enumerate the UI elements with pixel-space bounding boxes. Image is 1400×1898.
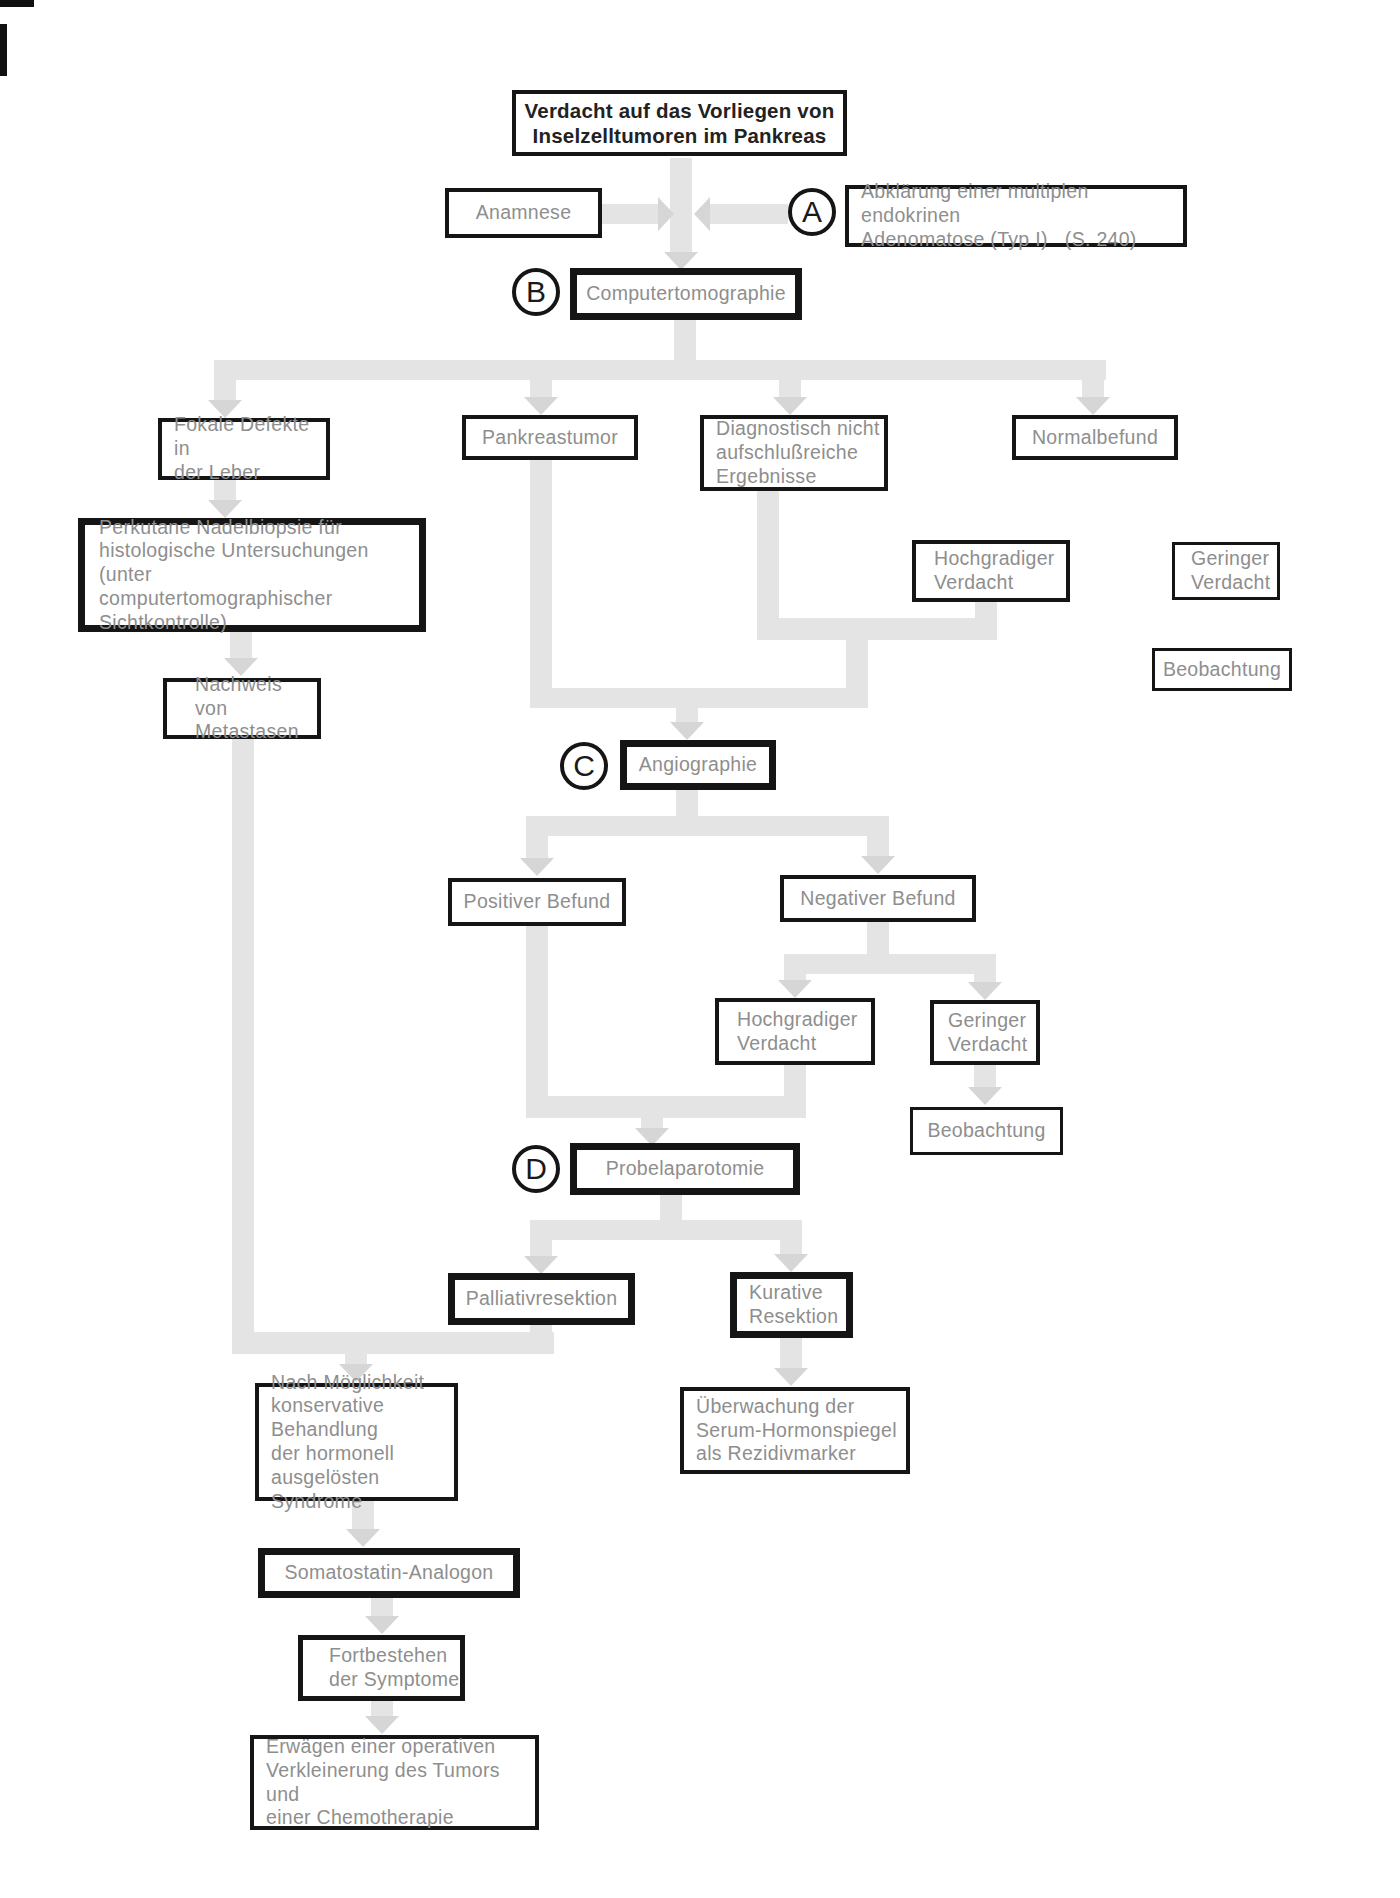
node-hochgradiger-verdacht-1: Hochgradiger Verdacht [912, 540, 1070, 602]
node-fokale-defekte: Fokale Defekte in der Leber [158, 418, 330, 480]
connector-line [757, 618, 997, 640]
connector-line [526, 816, 889, 836]
marker-c-letter: C [573, 749, 595, 783]
connector-line [530, 1240, 552, 1256]
connector-line [867, 922, 889, 954]
connector-line [526, 926, 548, 1118]
connector-line [345, 1354, 367, 1364]
marker-d: D [512, 1145, 560, 1193]
connector-line [526, 1096, 806, 1118]
connector-line [371, 1598, 393, 1616]
connector-line [230, 632, 252, 658]
marker-c: C [560, 742, 608, 790]
marker-a-letter: A [802, 195, 822, 229]
connector-arrow-down [778, 980, 812, 998]
connector-line [676, 790, 698, 816]
connector-arrow-down [968, 1087, 1002, 1105]
node-positiver-befund: Positiver Befund [448, 878, 626, 926]
connector-line [602, 204, 658, 224]
connector-arrow-down [524, 397, 558, 415]
connector-line [641, 1118, 663, 1128]
node-geringer-verdacht-1: Geringer Verdacht [1172, 542, 1280, 600]
node-fortbestehen: Fortbestehen der Symptome [298, 1635, 465, 1701]
connector-arrow-down [1076, 397, 1110, 415]
node-ueberwachung: Überwachung der Serum-Hormonspiegel als … [680, 1387, 910, 1474]
connector-line [780, 1240, 802, 1254]
connector-line [1082, 380, 1104, 397]
flowchart-canvas: Verdacht auf das Vorliegen von Inselzell… [0, 0, 1400, 1898]
node-negativer-befund: Negativer Befund [780, 875, 976, 922]
node-pankreastumor: Pankreastumor [462, 415, 638, 460]
connector-line [530, 460, 552, 688]
connector-arrow-left [694, 197, 710, 231]
node-start: Verdacht auf das Vorliegen von Inselzell… [512, 90, 847, 156]
node-erwaegen: Erwägen einer operativen Verkleinerung d… [250, 1735, 539, 1830]
connector-line [214, 380, 236, 400]
node-somatostatin-analogon: Somatostatin-Analogon [258, 1548, 520, 1598]
node-beobachtung-1: Beobachtung [1152, 648, 1292, 691]
connector-arrow-down [670, 722, 704, 740]
connector-line [526, 836, 548, 858]
connector-line [232, 738, 254, 1354]
connector-line [780, 1338, 802, 1368]
node-kurative-resektion: Kurative Resektion [730, 1272, 853, 1338]
node-anamnese: Anamnese [445, 188, 602, 238]
connector-arrow-right [658, 197, 674, 231]
node-probelaparotomie: Probelaparotomie [570, 1143, 800, 1195]
connector-arrow-down [520, 858, 554, 876]
node-hochgradiger-verdacht-2: Hochgradiger Verdacht [715, 998, 875, 1065]
connector-arrow-down [524, 1256, 558, 1274]
connector-line [530, 688, 868, 708]
scan-artifact [0, 24, 7, 76]
connector-line [371, 1701, 393, 1716]
connector-line [214, 360, 1106, 380]
node-computertomographie: Computertomographie [570, 268, 802, 320]
marker-b-letter: B [526, 275, 546, 309]
connector-line [784, 954, 996, 974]
connector-line [660, 1195, 682, 1220]
node-diagnostisch: Diagnostisch nicht aufschlußreiche Ergeb… [700, 415, 888, 491]
connector-line [530, 1325, 552, 1332]
connector-arrow-down [365, 1616, 399, 1634]
marker-b: B [512, 268, 560, 316]
connector-line [867, 836, 889, 856]
connector-line [530, 1220, 802, 1240]
node-normalbefund: Normalbefund [1012, 415, 1178, 460]
connector-arrow-down [365, 1716, 399, 1734]
connector-arrow-down [968, 982, 1002, 1000]
node-palliativresektion: Palliativresektion [448, 1273, 635, 1325]
connector-line [974, 1065, 996, 1087]
node-nach-moeglichkeit: Nach Möglichkeit konservative Behandlung… [255, 1383, 458, 1501]
node-abklaerung: Abklärung einer multiplen endokrinen Ade… [845, 185, 1187, 247]
marker-d-letter: D [525, 1152, 547, 1186]
connector-arrow-down [346, 1529, 380, 1547]
scan-artifact [0, 0, 34, 7]
connector-line [232, 1332, 554, 1354]
connector-line [710, 204, 788, 224]
marker-a: A [788, 188, 836, 236]
node-geringer-verdacht-2: Geringer Verdacht [930, 1000, 1040, 1065]
node-nachweis-metastasen: Nachweis von Metastasen [163, 678, 321, 739]
node-beobachtung-2: Beobachtung [910, 1107, 1063, 1155]
connector-line [975, 602, 997, 640]
connector-line [779, 380, 801, 397]
connector-line [674, 320, 696, 360]
connector-arrow-down [774, 1254, 808, 1272]
node-perkutane-nadelbiopsie: Perkutane Nadelbiopsie für histologische… [78, 518, 426, 632]
connector-arrow-down [774, 1368, 808, 1386]
connector-arrow-down [773, 397, 807, 415]
connector-line [974, 974, 996, 982]
node-angiographie: Angiographie [620, 740, 776, 790]
connector-line [530, 380, 552, 397]
connector-line [676, 708, 698, 722]
connector-arrow-down [861, 856, 895, 874]
